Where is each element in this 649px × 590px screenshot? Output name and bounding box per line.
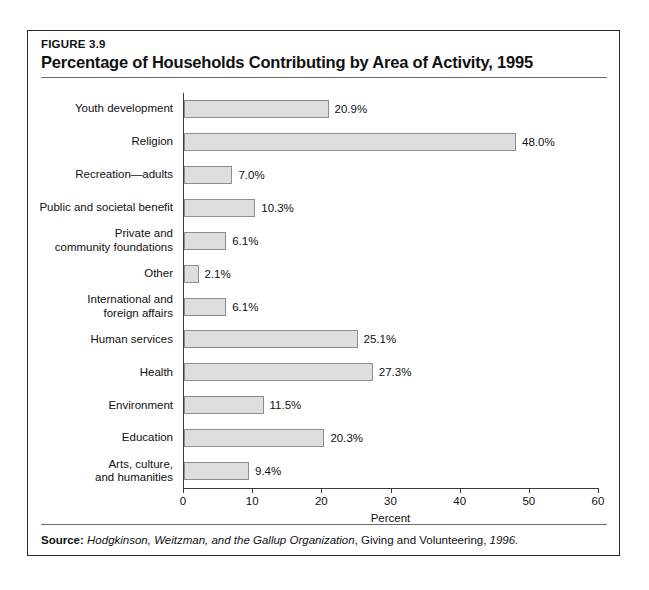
bar-category-label-line: Youth development bbox=[75, 102, 173, 116]
bar-row: Human services25.1% bbox=[28, 323, 621, 355]
x-axis-tick-label: 60 bbox=[578, 495, 618, 507]
bar bbox=[184, 363, 373, 381]
x-axis-tick bbox=[598, 488, 599, 493]
bar bbox=[184, 429, 324, 447]
bar bbox=[184, 265, 199, 283]
bar-track: 20.3% bbox=[184, 422, 363, 454]
source-label: Source: bbox=[41, 534, 84, 546]
figure-header: FIGURE 3.9 Percentage of Households Cont… bbox=[41, 37, 607, 73]
source-citation-work: , Giving and Volunteering, bbox=[355, 534, 490, 546]
x-axis-tick bbox=[391, 488, 392, 493]
bar-category-label: Education bbox=[0, 422, 179, 454]
bar-row: Other2.1% bbox=[28, 258, 621, 290]
bar-value-label: 25.1% bbox=[364, 333, 397, 345]
x-axis-title: Percent bbox=[183, 512, 598, 524]
bar-category-label: Human services bbox=[0, 323, 179, 355]
bar-value-label: 27.3% bbox=[379, 366, 412, 378]
bar-value-label: 20.9% bbox=[335, 103, 368, 115]
bar-value-label: 10.3% bbox=[261, 202, 294, 214]
source-citation-authors: Hodgkinson, Weitzman, and the Gallup Org… bbox=[87, 534, 355, 546]
figure-frame: FIGURE 3.9 Percentage of Households Cont… bbox=[27, 30, 620, 556]
x-axis-tick-label: 0 bbox=[163, 495, 203, 507]
bar-track: 11.5% bbox=[184, 389, 301, 421]
x-axis-tick bbox=[321, 488, 322, 493]
bar-row: Private andcommunity foundations6.1% bbox=[28, 225, 621, 257]
bar bbox=[184, 100, 329, 118]
source-citation-year: 1996. bbox=[490, 534, 519, 546]
x-axis-tick-label: 40 bbox=[440, 495, 480, 507]
bar-category-label-line: Other bbox=[144, 267, 173, 281]
x-axis-tick-label: 20 bbox=[301, 495, 341, 507]
bar bbox=[184, 232, 226, 250]
bar-track: 2.1% bbox=[184, 258, 231, 290]
x-axis-tick-label: 50 bbox=[509, 495, 549, 507]
bar-value-label: 20.3% bbox=[330, 432, 363, 444]
bar-category-label-line: and humanities bbox=[95, 471, 173, 485]
bar-category-label-line: International and bbox=[87, 293, 173, 307]
bar-category-label-line: foreign affairs bbox=[104, 307, 173, 321]
bar-value-label: 11.5% bbox=[270, 399, 302, 411]
bar-value-label: 6.1% bbox=[232, 301, 258, 313]
bar-category-label: Arts, culture,and humanities bbox=[0, 455, 179, 487]
bar-track: 6.1% bbox=[184, 291, 258, 323]
bar bbox=[184, 298, 226, 316]
bar-value-label: 6.1% bbox=[232, 235, 258, 247]
bar bbox=[184, 330, 358, 348]
bar-category-label-line: community foundations bbox=[55, 241, 173, 255]
bar-category-label-line: Religion bbox=[131, 135, 173, 149]
bar bbox=[184, 133, 516, 151]
bar-track: 10.3% bbox=[184, 192, 294, 224]
title-divider bbox=[41, 77, 607, 78]
bar-chart-plot: Youth development20.9%Religion48.0%Recre… bbox=[28, 86, 621, 501]
bar-track: 9.4% bbox=[184, 455, 281, 487]
bar-row: Youth development20.9% bbox=[28, 93, 621, 125]
figure-title: Percentage of Households Contributing by… bbox=[41, 52, 607, 73]
bar-row: Environment11.5% bbox=[28, 389, 621, 421]
bar-value-label: 48.0% bbox=[522, 136, 555, 148]
bar-row: Education20.3% bbox=[28, 422, 621, 454]
bar-track: 7.0% bbox=[184, 159, 265, 191]
bar-value-label: 9.4% bbox=[255, 465, 281, 477]
bar-value-label: 7.0% bbox=[238, 169, 264, 181]
bar-row: Religion48.0% bbox=[28, 126, 621, 158]
source-note: Source: Hodgkinson, Weitzman, and the Ga… bbox=[41, 533, 607, 548]
bar-category-label-line: Education bbox=[122, 431, 173, 445]
bar-category-label: International andforeign affairs bbox=[0, 291, 179, 323]
bar-category-label: Recreation—adults bbox=[0, 159, 179, 191]
bar-category-label-line: Human services bbox=[91, 333, 173, 347]
bar-category-label: Religion bbox=[0, 126, 179, 158]
bar-value-label: 2.1% bbox=[205, 268, 231, 280]
bar-category-label-line: Recreation—adults bbox=[75, 168, 173, 182]
bar-row: Arts, culture,and humanities9.4% bbox=[28, 455, 621, 487]
bar-row: Public and societal benefit10.3% bbox=[28, 192, 621, 224]
bar-track: 25.1% bbox=[184, 323, 396, 355]
bar-category-label: Youth development bbox=[0, 93, 179, 125]
bar-category-label-line: Public and societal benefit bbox=[39, 201, 173, 215]
x-axis-tick-label: 30 bbox=[371, 495, 411, 507]
source-divider bbox=[41, 524, 607, 525]
bar-category-label: Private andcommunity foundations bbox=[0, 225, 179, 257]
bar bbox=[184, 396, 264, 414]
bar-category-label: Other bbox=[0, 258, 179, 290]
bar-category-label: Public and societal benefit bbox=[0, 192, 179, 224]
bar-category-label: Health bbox=[0, 356, 179, 388]
bar-category-label-line: Health bbox=[140, 366, 173, 380]
bar-category-label-line: Private and bbox=[115, 227, 173, 241]
x-axis-tick bbox=[529, 488, 530, 493]
x-axis-tick bbox=[183, 488, 184, 493]
x-axis-tick-label: 10 bbox=[232, 495, 272, 507]
bar-track: 27.3% bbox=[184, 356, 411, 388]
bar-category-label-line: Arts, culture, bbox=[108, 458, 173, 472]
bar bbox=[184, 462, 249, 480]
bar-track: 48.0% bbox=[184, 126, 555, 158]
bar-row: Recreation—adults7.0% bbox=[28, 159, 621, 191]
bar-row: International andforeign affairs6.1% bbox=[28, 291, 621, 323]
bar-category-label: Environment bbox=[0, 389, 179, 421]
figure-number: FIGURE 3.9 bbox=[41, 37, 607, 51]
bar bbox=[184, 166, 232, 184]
bar bbox=[184, 199, 255, 217]
bar-category-label-line: Environment bbox=[108, 399, 173, 413]
x-axis-tick bbox=[460, 488, 461, 493]
bar-track: 6.1% bbox=[184, 225, 258, 257]
x-axis-tick bbox=[252, 488, 253, 493]
